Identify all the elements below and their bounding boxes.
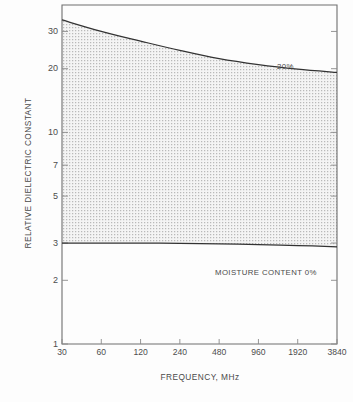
x-axis-tick-labels: 306012024048096019203840 (0, 0, 353, 402)
y-axis-title: RELATIVE DIELECTRIC CONSTANT (23, 53, 33, 293)
x-tick-label: 1920 (278, 348, 318, 357)
x-tick-label: 120 (121, 348, 161, 357)
chart-figure: 12357102030 306012024048096019203840 REL… (0, 0, 353, 402)
x-tick-label: 30 (42, 348, 82, 357)
annotation-moisture-content-0-percent: MOISTURE CONTENT 0% (215, 268, 317, 277)
x-tick-label: 3840 (317, 348, 353, 357)
x-tick-label: 960 (238, 348, 278, 357)
annotation-20-percent: 20% (277, 62, 294, 71)
x-axis-title: FREQUENCY, MHz (62, 372, 338, 382)
x-tick-label: 60 (81, 348, 121, 357)
x-tick-label: 480 (199, 348, 239, 357)
x-tick-label: 240 (160, 348, 200, 357)
